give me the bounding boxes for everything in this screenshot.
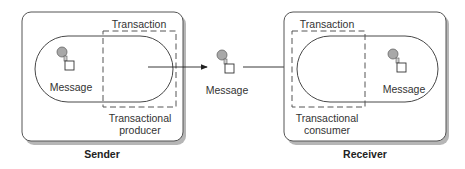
- sender-transaction-label: Transaction: [112, 18, 167, 30]
- sender-caption: Sender: [84, 148, 120, 160]
- sender-role-line1: Transactional: [109, 112, 172, 124]
- receiver-transaction-label: Transaction: [300, 18, 355, 30]
- sender-role-line2: producer: [119, 124, 161, 136]
- sender-group: Transaction Message Transactional produc…: [22, 12, 186, 160]
- middle-message-label: Message: [206, 84, 249, 96]
- middle-message-icon: [217, 50, 234, 73]
- receiver-group: Transaction Message Transactional consum…: [284, 12, 449, 160]
- middle-message: Message: [206, 50, 249, 96]
- receiver-message-label: Message: [383, 83, 426, 95]
- receiver-caption: Receiver: [343, 148, 387, 160]
- transaction-diagram: Transaction Message Transactional produc…: [0, 0, 465, 169]
- receiver-role-line1: Transactional: [296, 112, 359, 124]
- sender-message-label: Message: [50, 81, 93, 93]
- receiver-role-line2: consumer: [304, 124, 351, 136]
